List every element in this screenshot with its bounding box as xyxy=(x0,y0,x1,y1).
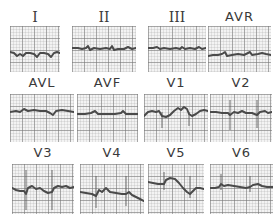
ecg-strip-V2 xyxy=(210,94,272,142)
lead-III: III xyxy=(148,6,206,72)
ecg-trace-V6 xyxy=(210,164,273,214)
lead-label-V1: V1 xyxy=(144,76,208,90)
ecg-strip-V6 xyxy=(210,164,273,214)
lead-label-AVF: AVF xyxy=(77,76,138,90)
ecg-trace-V3 xyxy=(12,164,74,214)
ecg-trace-V4 xyxy=(80,164,144,214)
ecg-trace-III xyxy=(148,26,206,72)
ecg-trace-V2 xyxy=(210,94,272,142)
ecg-trace-I xyxy=(10,26,60,72)
ecg-strip-V4 xyxy=(80,164,144,214)
lead-label-AVL: AVL xyxy=(10,76,74,90)
ecg-trace-II xyxy=(72,26,136,72)
lead-V1: V1 xyxy=(144,74,208,142)
ecg-strip-AVL xyxy=(10,94,74,142)
lead-V3: V3 xyxy=(12,144,74,214)
ecg-strip-AVR xyxy=(208,26,271,72)
ecg-trace-V1 xyxy=(144,94,208,142)
lead-II: II xyxy=(72,6,136,72)
lead-label-AVR: AVR xyxy=(208,10,271,24)
ecg-strip-V5 xyxy=(148,164,204,214)
lead-V6: V6 xyxy=(210,144,273,214)
lead-AVR: AVR xyxy=(208,6,271,72)
lead-label-V6: V6 xyxy=(210,146,273,160)
lead-AVF: AVF xyxy=(77,74,138,142)
lead-label-III: III xyxy=(148,10,206,24)
ecg-strip-I xyxy=(10,26,60,72)
lead-label-V3: V3 xyxy=(12,146,74,160)
ecg-strip-AVF xyxy=(77,94,138,142)
lead-label-I: I xyxy=(10,10,60,24)
lead-V5: V5 xyxy=(148,144,204,214)
lead-I: I xyxy=(10,6,60,72)
ecg-strip-V1 xyxy=(144,94,208,142)
ecg-trace-AVR xyxy=(208,26,271,72)
ecg-trace-V5 xyxy=(148,164,204,214)
lead-V2: V2 xyxy=(210,74,272,142)
ecg-trace-AVL xyxy=(10,94,74,142)
lead-label-V5: V5 xyxy=(148,146,204,160)
ecg-strip-II xyxy=(72,26,136,72)
lead-label-V2: V2 xyxy=(210,76,272,90)
lead-AVL: AVL xyxy=(10,74,74,142)
ecg-strip-V3 xyxy=(12,164,74,214)
ecg-strip-III xyxy=(148,26,206,72)
lead-V4: V4 xyxy=(80,144,144,214)
lead-label-V4: V4 xyxy=(80,146,144,160)
ecg-trace-AVF xyxy=(77,94,138,142)
lead-label-II: II xyxy=(72,10,136,24)
